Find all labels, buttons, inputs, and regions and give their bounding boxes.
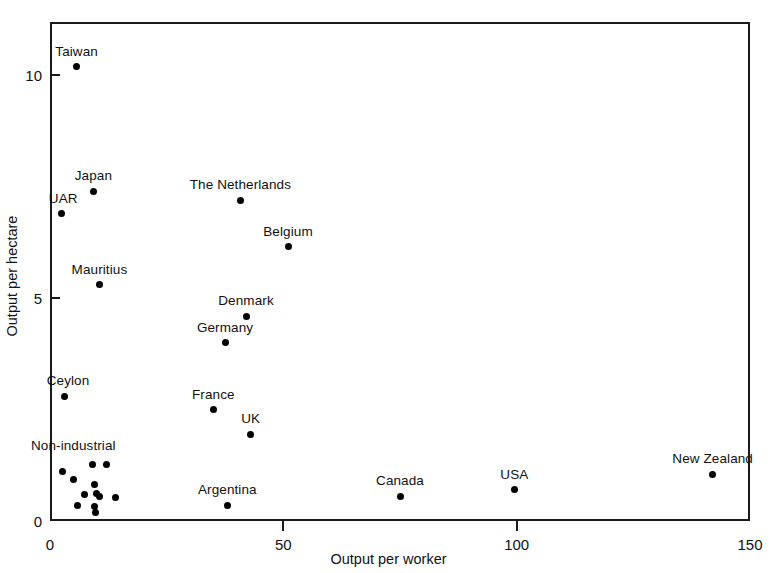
y-axis-tick-label: 0 [12,514,42,529]
data-point[interactable] [709,471,716,478]
y-axis-label: Output per hectare [4,186,20,366]
cluster-label: Non-industrial [31,438,116,452]
data-point[interactable] [90,188,97,195]
cluster-data-point[interactable] [59,468,66,475]
x-axis-tick-label: 150 [737,537,762,552]
plot-area [50,22,750,521]
data-point[interactable] [58,210,65,217]
data-point-label: Denmark [218,294,273,308]
data-point-label: UK [241,412,260,426]
x-axis-tick [282,521,284,531]
data-point[interactable] [237,197,244,204]
data-point-label: Argentina [198,483,257,497]
cluster-data-point[interactable] [96,493,103,500]
data-point-label: UAR [49,191,78,205]
x-axis-tick [516,521,518,531]
cluster-data-point[interactable] [103,461,110,468]
y-axis-tick [50,74,60,76]
data-point[interactable] [247,431,254,438]
x-axis-label: Output per worker [0,551,777,567]
data-point-label: Belgium [263,224,312,238]
data-point[interactable] [61,393,68,400]
cluster-data-point[interactable] [70,476,77,483]
data-point-label: New Zealand [672,452,753,466]
data-point[interactable] [222,339,229,346]
data-point-label: France [192,387,235,401]
x-axis-tick-label: 0 [46,537,54,552]
data-point-label: Taiwan [55,44,98,58]
data-point-label: Germany [197,320,253,334]
data-point[interactable] [397,493,404,500]
cluster-data-point[interactable] [92,509,99,516]
data-point[interactable] [224,502,231,509]
scatter-chart: 0501001500510TaiwanJapanUARThe Netherlan… [0,0,777,573]
data-point-label: Ceylon [47,374,90,388]
y-axis-tick-label: 10 [12,68,42,83]
data-point-label: Japan [75,169,112,183]
cluster-data-point[interactable] [89,461,96,468]
x-axis-tick-label: 100 [504,537,529,552]
x-axis-tick-label: 50 [275,537,292,552]
y-axis-tick [50,297,60,299]
data-point-label: USA [500,467,528,481]
data-point-label: Canada [376,474,424,488]
cluster-data-point[interactable] [81,491,88,498]
data-point[interactable] [210,406,217,413]
data-point-label: Mauritius [72,262,128,276]
data-point-label: The Netherlands [190,178,291,192]
